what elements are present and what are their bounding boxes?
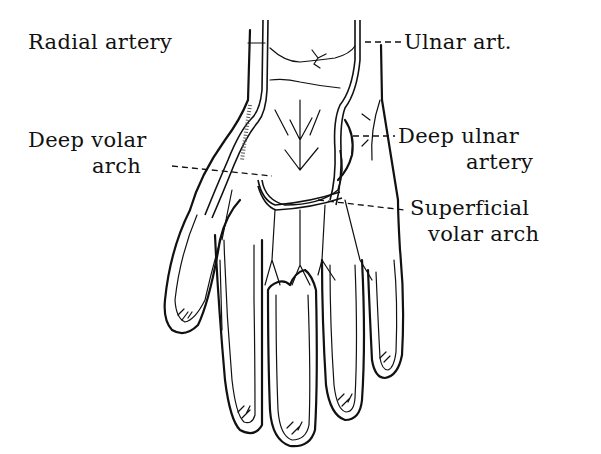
ring-finger-outline bbox=[322, 260, 364, 420]
label-superficial-volar-arch-line2: volar arch bbox=[428, 222, 539, 246]
index-finger-outline bbox=[215, 235, 262, 433]
ulnar-artery bbox=[330, 20, 360, 205]
label-deep-volar-arch-line1: Deep volar bbox=[28, 128, 147, 152]
label-superficial-volar-arch-line1: Superficial bbox=[410, 196, 529, 220]
carpal-network bbox=[270, 46, 355, 170]
label-radial-artery: Radial artery bbox=[28, 30, 172, 54]
leader-lines bbox=[172, 42, 405, 210]
label-deep-ulnar-artery-line2: artery bbox=[466, 150, 533, 174]
thumb-outline bbox=[165, 200, 240, 333]
label-deep-ulnar-artery-line1: Deep ulnar bbox=[398, 124, 519, 148]
little-finger-outline bbox=[368, 200, 403, 378]
middle-finger-outline bbox=[268, 270, 317, 446]
label-ulnar-artery: Ulnar art. bbox=[404, 30, 512, 54]
label-deep-volar-arch-line2: arch bbox=[92, 154, 141, 178]
forearm-outline bbox=[190, 30, 398, 210]
